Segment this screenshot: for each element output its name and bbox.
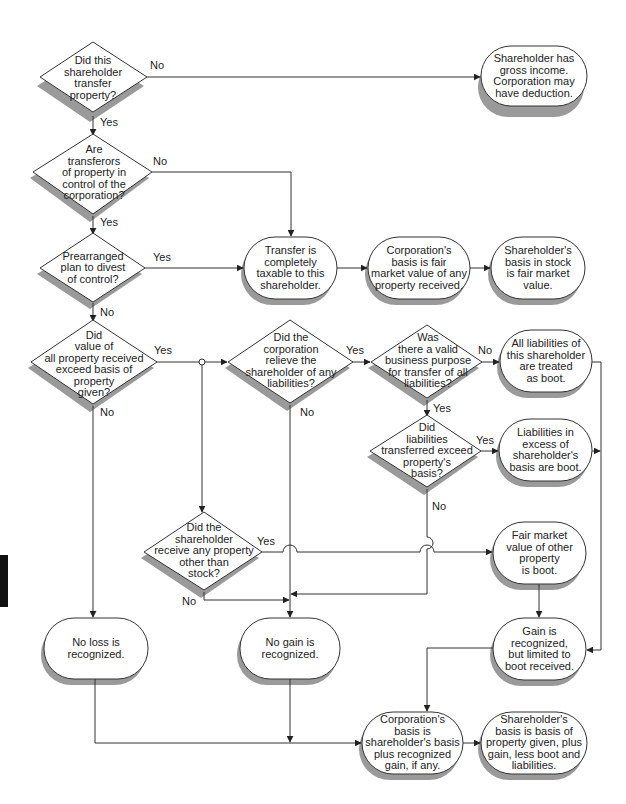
result-no-loss [44, 618, 148, 679]
decision-prearranged-plan [40, 233, 145, 302]
result-corp-basis-fmv [368, 237, 470, 299]
side-tab-marker [0, 555, 8, 607]
label-liab-no: No [432, 500, 446, 512]
label-value-no: No [100, 406, 114, 418]
decision-valid-business-purpose [371, 325, 482, 398]
label-relieve-no: No [300, 406, 314, 418]
result-all-liabilities-boot [500, 330, 592, 392]
result-gross-income [481, 46, 587, 106]
result-liabilities-excess-boot [499, 419, 592, 481]
label-purpose-yes: Yes [433, 402, 451, 414]
decision-liabilities-exceed-basis [370, 415, 481, 487]
label-prearranged-yes: Yes [153, 251, 171, 263]
label-control-no: No [153, 155, 167, 167]
label-prearranged-no: No [100, 306, 114, 318]
label-transfer-no: No [150, 59, 164, 71]
label-liab-yes: Yes [476, 434, 494, 446]
label-other-no: No [182, 595, 196, 607]
result-shareholder-basis-final [481, 712, 587, 774]
decision-transferors-in-control [33, 134, 152, 214]
decision-other-property-received [144, 512, 262, 590]
result-shareholder-basis-fmv [491, 237, 585, 299]
decision-corporation-relieve-liabilities [228, 320, 353, 403]
decision-value-exceed-basis [31, 320, 157, 404]
label-transfer-yes: Yes [100, 116, 118, 128]
flowchart-canvas [0, 0, 626, 804]
result-corp-basis-final [362, 712, 463, 774]
label-relieve-yes: Yes [346, 344, 364, 356]
result-no-gain [240, 618, 340, 679]
label-value-yes: Yes [154, 344, 172, 356]
result-gain-recognized [493, 618, 586, 680]
label-control-yes: Yes [100, 216, 118, 228]
diamonds [31, 42, 482, 590]
label-other-yes: Yes [257, 535, 275, 547]
decision-transfer-property [40, 42, 147, 112]
junction-dot [199, 359, 205, 365]
result-completely-taxable [244, 237, 337, 299]
label-purpose-no: No [478, 344, 492, 356]
result-fmv-other-property-boot [493, 522, 586, 584]
